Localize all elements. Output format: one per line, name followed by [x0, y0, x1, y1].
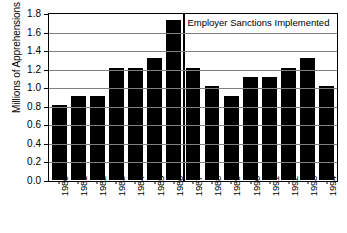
bar-slot: [88, 15, 107, 180]
y-tick-mark: [44, 33, 48, 34]
employer-sanctions-vline: [183, 14, 185, 181]
y-tick-label: 1.4: [0, 45, 41, 56]
bar-slot: [183, 15, 202, 180]
bar-1981: [71, 96, 86, 180]
gridline: [49, 70, 337, 71]
bar-1994: [319, 86, 334, 180]
x-tick-slot: 1986: [164, 184, 183, 230]
y-tick-mark: [44, 181, 48, 182]
y-tick-mark: [44, 144, 48, 145]
bar-slot: [126, 15, 145, 180]
bar-slot: [298, 15, 317, 180]
y-tick-mark: [44, 14, 48, 15]
bar-slot: [260, 15, 279, 180]
gridline: [49, 51, 337, 52]
gridline: [49, 33, 337, 34]
gridline: [49, 144, 337, 145]
x-tick-slot: 1985: [145, 184, 164, 230]
y-tick-label: 1.6: [0, 27, 41, 38]
x-tick-slot: 1993: [299, 184, 318, 230]
x-tick-slot: 1991: [260, 184, 279, 230]
bar-1988: [205, 86, 220, 180]
x-tick-slot: 1981: [68, 184, 87, 230]
y-tick-mark: [44, 51, 48, 52]
y-tick-label: 1.8: [0, 8, 41, 19]
gridline: [49, 88, 337, 89]
bar-1990: [243, 77, 258, 180]
gridline: [49, 162, 337, 163]
y-tick-label: 0.0: [0, 175, 41, 186]
y-tick-mark: [44, 70, 48, 71]
bar-slot: [279, 15, 298, 180]
plot-area: [48, 13, 338, 182]
bar-slot: [222, 15, 241, 180]
y-tick-label: 0.4: [0, 138, 41, 149]
bar-slot: [50, 15, 69, 180]
bar-slot: [164, 15, 183, 180]
bar-1991: [262, 77, 277, 180]
x-tick-slot: 1987: [183, 184, 202, 230]
bar-chart: Millions of Apprehensions 1.81.61.41.21.…: [0, 0, 347, 233]
x-axis-tick-labels: 1980198119821983198419851986198719881989…: [49, 184, 337, 230]
bar-slot: [317, 15, 336, 180]
y-tick-mark: [44, 88, 48, 89]
bar-slot: [203, 15, 222, 180]
gridline: [49, 107, 337, 108]
x-tick-slot: 1990: [241, 184, 260, 230]
x-tick-slot: 1982: [87, 184, 106, 230]
bar-1986: [166, 20, 181, 180]
x-tick-slot: 1992: [279, 184, 298, 230]
x-tick-slot: 1980: [49, 184, 68, 230]
bar-slot: [107, 15, 126, 180]
y-tick-mark: [44, 107, 48, 108]
x-tick-slot: 1994: [318, 184, 337, 230]
x-tick-slot: 1983: [107, 184, 126, 230]
bar-slot: [69, 15, 88, 180]
bar-slot: [241, 15, 260, 180]
x-tick-slot: 1988: [203, 184, 222, 230]
bar-1989: [224, 96, 239, 180]
bar-1982: [90, 96, 105, 180]
y-tick-label: 0.2: [0, 156, 41, 167]
annotation-employer-sanctions: Employer Sanctions Implemented: [187, 17, 329, 28]
y-tick-label: 1.2: [0, 64, 41, 75]
y-tick-mark: [44, 162, 48, 163]
x-tick-slot: 1984: [126, 184, 145, 230]
gridline: [49, 125, 337, 126]
bar-series: [50, 15, 336, 180]
bar-slot: [145, 15, 164, 180]
bar-1980: [52, 105, 67, 180]
y-tick-label: 1.0: [0, 82, 41, 93]
y-tick-label: 0.6: [0, 119, 41, 130]
x-tick-label-1994: 1994: [327, 176, 338, 196]
x-tick-slot: 1989: [222, 184, 241, 230]
y-tick-label: 0.8: [0, 101, 41, 112]
y-tick-mark: [44, 125, 48, 126]
